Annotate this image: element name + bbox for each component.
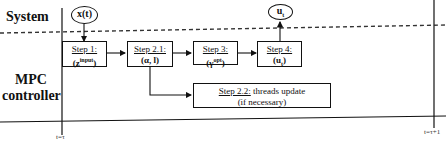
state-label: x(t) xyxy=(77,8,92,19)
step-2-1-title: Step 2.1: xyxy=(128,44,172,55)
step-1-value: (zinput) xyxy=(63,55,106,69)
time-end-label: t=τ+1 xyxy=(424,128,440,136)
step-4-title: Step 4: xyxy=(258,44,301,55)
lane-label-mpc-line1: MPC xyxy=(15,72,47,87)
step-4-value: (ut) xyxy=(258,55,301,70)
step-3-title: Step 3: xyxy=(194,44,237,55)
step-2-2-line2: (if necessary) xyxy=(194,97,330,108)
control-output-node: ut xyxy=(268,4,293,20)
time-axis xyxy=(0,116,446,122)
step-1-box: Step 1: (zinput) xyxy=(62,41,107,67)
step-2-1-value: (α, l) xyxy=(128,55,172,66)
step-3-box: Step 3: (γopt) xyxy=(193,41,238,65)
step-1-title: Step 1: xyxy=(63,44,106,55)
state-input-node: x(t) xyxy=(71,6,98,24)
lane-label-mpc: MPC controller xyxy=(2,72,60,104)
lane-label-mpc-line2: controller xyxy=(2,88,61,103)
step-2-1-box: Step 2.1: (α, l) xyxy=(127,41,173,67)
step-3-value: (γopt) xyxy=(194,55,237,69)
lane-separator xyxy=(0,25,446,33)
step-2-2-line1: Step 2.2: threads update xyxy=(219,86,306,96)
diagram-lines xyxy=(0,0,446,143)
step-2-2-box: Step 2.2: threads update (if necessary) xyxy=(193,83,331,108)
time-start-label: t=τ xyxy=(56,133,65,141)
output-subscript: t xyxy=(282,12,284,18)
step-4-box: Step 4: (ut) xyxy=(257,41,302,67)
lane-label-system: System xyxy=(6,9,49,25)
